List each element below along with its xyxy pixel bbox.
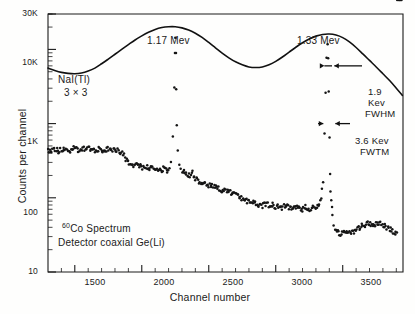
spectrum-title: 60Co Spectrum (62, 222, 131, 234)
x-axis-title: Channel number (150, 291, 270, 303)
peak-label-1330-kev: 1.33 Mev (297, 35, 340, 46)
x-tick-label-3000: 3000 (282, 277, 322, 287)
peak-label-1170-kev: 1.17 Mev (147, 35, 190, 46)
fwhm-name: FWHM (365, 108, 395, 120)
y-axis-title: Counts per channel (16, 96, 28, 216)
y-tick-label-10: 10 (8, 266, 38, 276)
detector-size-nai: 3 × 3 (64, 87, 88, 98)
fwtm-name: FWTM (360, 146, 389, 158)
detector-description: Detector coaxial Ge(Li) (58, 237, 165, 248)
fwhm-unit: Kev (368, 97, 385, 109)
isotope-mass-number: 60 (62, 222, 70, 229)
detector-label-nai: NaI(Tl) (58, 74, 90, 85)
y-tick-label-30k: 30K (8, 8, 38, 18)
x-tick-label-1500: 1500 (75, 277, 115, 287)
x-tick-label-3500: 3500 (351, 277, 391, 287)
plot-canvas (0, 0, 415, 314)
y-axis-ticks (48, 14, 56, 272)
resolution-arrow-markers (318, 63, 362, 126)
fwhm-value: 1.9 (368, 86, 382, 98)
x-axis-ticks (61, 265, 396, 272)
ge-li-data-points (47, 0, 403, 237)
x-tick-label-2500: 2500 (213, 277, 253, 287)
x-tick-label-2000: 2000 (144, 277, 184, 287)
nai-tl-curve (48, 27, 402, 96)
figure-gamma-spectrum: 30K 10K 1K 100 10 1500 2000 2500 3000 35… (0, 0, 415, 314)
fwtm-value: 3.6 Kev (355, 135, 389, 147)
isotope-name: Co Spectrum (70, 223, 131, 234)
y-tick-label-10k: 10K (8, 57, 38, 67)
